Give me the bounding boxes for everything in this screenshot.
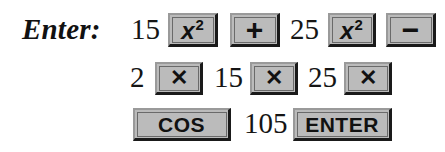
number-25: 25 — [290, 12, 319, 46]
number-2: 2 — [130, 60, 145, 94]
enter-key[interactable]: ENTER — [293, 108, 392, 141]
enter-label: ENTER — [305, 114, 379, 135]
instruction-label: Enter: — [22, 12, 101, 46]
multiply-icon: ✕ — [359, 67, 377, 89]
number-15: 15 — [214, 60, 243, 94]
x-squared-key[interactable]: x2 — [168, 13, 218, 47]
number-25: 25 — [308, 60, 337, 94]
cos-label: COS — [158, 114, 205, 135]
cos-key[interactable]: COS — [133, 108, 231, 141]
plus-key[interactable]: + — [230, 13, 280, 47]
minus-key[interactable]: − — [386, 13, 436, 47]
multiply-icon: ✕ — [265, 67, 283, 89]
x-squared-key[interactable]: x2 — [328, 13, 376, 47]
multiply-icon: ✕ — [170, 67, 188, 89]
multiply-key[interactable]: ✕ — [344, 62, 392, 95]
number-105: 105 — [244, 106, 288, 140]
multiply-key[interactable]: ✕ — [155, 62, 203, 95]
multiply-key[interactable]: ✕ — [250, 62, 298, 95]
plus-icon: + — [246, 17, 264, 43]
x-squared-icon: x2 — [181, 17, 204, 43]
minus-icon: − — [402, 17, 420, 43]
x-squared-icon: x2 — [340, 17, 363, 43]
number-15: 15 — [131, 12, 160, 46]
